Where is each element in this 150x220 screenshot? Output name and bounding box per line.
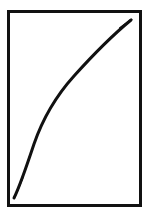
- plot-frame: [9, 12, 141, 206]
- figure-root: [0, 0, 150, 220]
- figure-canvas: [0, 0, 150, 220]
